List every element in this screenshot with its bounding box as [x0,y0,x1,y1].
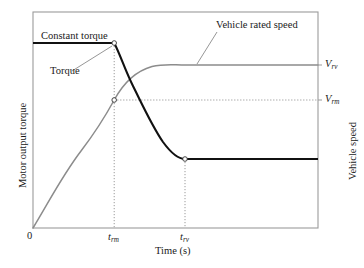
series-vehicle-speed [33,65,318,228]
plot-frame [33,12,318,228]
y-tick-label-v-rm: Vrm [325,94,340,105]
annotation-vehicle-rated-speed: Vehicle rated speed [216,20,298,31]
marker-torque-peak [112,41,117,46]
annotation-constant-torque: Constant torque [41,31,108,42]
y-axis-left-title: Motor output torque [18,103,29,188]
y-tick-v-rm-subscript: rm [331,98,339,106]
marker-speed-at-t-rm [112,98,117,103]
series-motor-output-torque [33,43,318,159]
y-tick-v-rv-subscript: rv [331,63,337,71]
leader-line-vehicle-rated-speed [197,32,217,64]
figure-container: Constant torque Torque Vehicle rated spe… [0,0,364,268]
y-tick-label-v-rv: Vrv [325,59,338,70]
x-tick-label-t-rv: trv [180,232,189,243]
annotation-torque: Torque [50,66,80,77]
x-tick-t-rv-subscript: rv [183,236,189,244]
marker-torque-knee [183,157,188,162]
x-tick-t-rm-subscript: rm [111,236,119,244]
y-axis-right-title: Vehicle speed [348,122,359,180]
x-tick-label-t-rm: trm [108,232,119,243]
origin-label: 0 [27,231,32,242]
x-axis-title: Time (s) [155,246,191,257]
